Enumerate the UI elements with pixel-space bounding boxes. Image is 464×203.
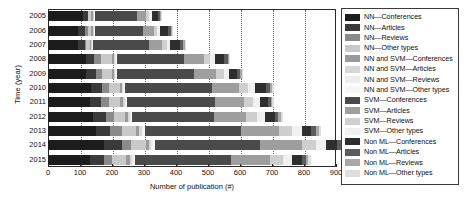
- bar-segment[interactable]: [229, 69, 237, 79]
- bar-segment[interactable]: [48, 155, 90, 165]
- bar-segment[interactable]: [231, 155, 269, 165]
- legend-item[interactable]: NN and SVM—Reviews: [345, 74, 456, 84]
- bar-segment[interactable]: [125, 83, 211, 93]
- bar-row[interactable]: [48, 26, 336, 36]
- bar-segment[interactable]: [316, 140, 326, 150]
- bar-segment[interactable]: [137, 11, 147, 21]
- bar-segment[interactable]: [48, 140, 104, 150]
- bar-segment[interactable]: [241, 126, 279, 136]
- bar-segment[interactable]: [239, 83, 249, 93]
- bar-segment[interactable]: [260, 140, 302, 150]
- bar-segment[interactable]: [112, 155, 126, 165]
- bar-segment[interactable]: [260, 97, 268, 107]
- bar-segment[interactable]: [109, 97, 120, 107]
- bar-segment[interactable]: [104, 155, 112, 165]
- legend-item[interactable]: NN—Other types: [345, 43, 456, 53]
- bar-row[interactable]: [48, 126, 336, 136]
- bar-segment[interactable]: [194, 69, 216, 79]
- bar-segment[interactable]: [95, 11, 137, 21]
- bar-segment[interactable]: [131, 140, 145, 150]
- bar-segment[interactable]: [102, 69, 112, 79]
- legend-item[interactable]: Non ML—Articles: [345, 147, 456, 157]
- legend-item[interactable]: SVM—Conferences: [345, 95, 456, 105]
- bar-segment[interactable]: [244, 97, 254, 107]
- bar-segment[interactable]: [185, 40, 186, 50]
- bar-segment[interactable]: [143, 26, 154, 36]
- bar-segment[interactable]: [48, 112, 93, 122]
- legend-item[interactable]: NN—Reviews: [345, 33, 456, 43]
- bar-segment[interactable]: [48, 97, 90, 107]
- bar-segment[interactable]: [292, 126, 302, 136]
- bar-segment[interactable]: [302, 126, 312, 136]
- bar-segment[interactable]: [132, 112, 214, 122]
- bar-segment[interactable]: [326, 140, 337, 150]
- bar-row[interactable]: [48, 83, 336, 93]
- bar-segment[interactable]: [160, 26, 168, 36]
- bar-row[interactable]: [48, 155, 336, 165]
- bar-segment[interactable]: [110, 126, 121, 136]
- bar-segment[interactable]: [117, 54, 184, 64]
- bar-segment[interactable]: [257, 112, 265, 122]
- bar-segment[interactable]: [229, 54, 230, 64]
- bar-segment[interactable]: [90, 97, 101, 107]
- bar-segment[interactable]: [281, 112, 283, 122]
- bar-segment[interactable]: [101, 54, 112, 64]
- bar-segment[interactable]: [279, 126, 292, 136]
- legend-item[interactable]: NN—Articles: [345, 22, 456, 32]
- bar-segment[interactable]: [86, 69, 96, 79]
- bar-segment[interactable]: [155, 140, 261, 150]
- legend-item[interactable]: NN and SVM—Conferences: [345, 54, 456, 64]
- bar-segment[interactable]: [214, 112, 246, 122]
- bar-segment[interactable]: [48, 40, 78, 50]
- bar-segment[interactable]: [95, 26, 143, 36]
- bar-segment[interactable]: [170, 40, 180, 50]
- bar-row[interactable]: [48, 11, 336, 21]
- bar-segment[interactable]: [48, 69, 86, 79]
- legend-item[interactable]: NN—Conferences: [345, 12, 456, 22]
- legend-item[interactable]: SVM—Reviews: [345, 116, 456, 126]
- bar-segment[interactable]: [135, 155, 231, 165]
- bar-row[interactable]: [48, 97, 336, 107]
- bar-segment[interactable]: [48, 54, 86, 64]
- bar-segment[interactable]: [216, 69, 224, 79]
- bar-row[interactable]: [48, 112, 336, 122]
- bar-segment[interactable]: [127, 97, 215, 107]
- bar-segment[interactable]: [86, 54, 94, 64]
- bar-segment[interactable]: [319, 126, 322, 136]
- legend-item[interactable]: NN and SVM—Articles: [345, 64, 456, 74]
- bar-segment[interactable]: [109, 83, 120, 93]
- bar-segment[interactable]: [265, 112, 275, 122]
- bar-row[interactable]: [48, 40, 336, 50]
- bar-row[interactable]: [48, 54, 336, 64]
- bar-segment[interactable]: [101, 97, 109, 107]
- bar-segment[interactable]: [114, 112, 125, 122]
- bar-segment[interactable]: [91, 83, 102, 93]
- bar-segment[interactable]: [302, 140, 316, 150]
- bar-segment[interactable]: [96, 126, 110, 136]
- bar-segment[interactable]: [272, 83, 274, 93]
- bar-segment[interactable]: [90, 155, 104, 165]
- bar-segment[interactable]: [117, 69, 194, 79]
- bar-segment[interactable]: [122, 140, 132, 150]
- bar-segment[interactable]: [272, 97, 274, 107]
- bar-segment[interactable]: [255, 83, 266, 93]
- bar-segment[interactable]: [145, 126, 241, 136]
- bar-segment[interactable]: [93, 40, 149, 50]
- bar-segment[interactable]: [149, 40, 162, 50]
- legend-item[interactable]: NN and SVM—Other types: [345, 85, 456, 95]
- bar-segment[interactable]: [184, 54, 203, 64]
- bar-segment[interactable]: [283, 155, 293, 165]
- bar-segment[interactable]: [215, 54, 225, 64]
- bar-segment[interactable]: [104, 140, 122, 150]
- bar-segment[interactable]: [122, 126, 136, 136]
- bar-segment[interactable]: [242, 69, 243, 79]
- bar-row[interactable]: [48, 69, 336, 79]
- bar-segment[interactable]: [308, 155, 311, 165]
- legend-item[interactable]: SVM—Articles: [345, 106, 456, 116]
- bar-segment[interactable]: [48, 11, 83, 21]
- bar-segment[interactable]: [48, 126, 96, 136]
- legend-item[interactable]: Non ML—Reviews: [345, 157, 456, 167]
- bar-segment[interactable]: [292, 155, 302, 165]
- bar-row[interactable]: [48, 140, 336, 150]
- legend-item[interactable]: SVM—Other types: [345, 126, 456, 136]
